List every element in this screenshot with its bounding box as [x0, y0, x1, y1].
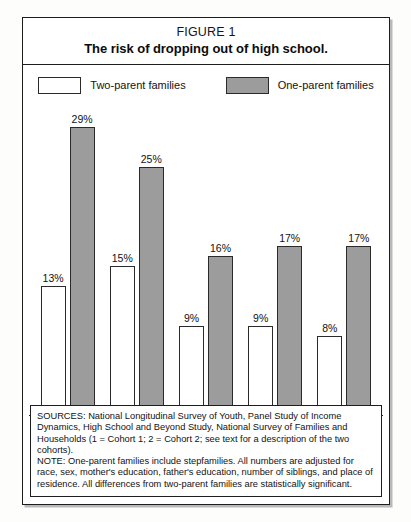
bar-wrap: 17%: [346, 113, 371, 415]
bar-group-nsfh1: 9%17%: [248, 113, 302, 415]
bar-hsb-one-parent: [208, 256, 233, 415]
bar-value-label: 9%: [253, 313, 268, 324]
figure-footnote-box: SOURCES: National Longitudinal Survey of…: [30, 405, 382, 497]
bar-nlsy-one-parent: [70, 127, 95, 415]
bar-value-label: 15%: [112, 253, 133, 264]
bar-psid-two-parent: [110, 266, 135, 415]
bar-hsb-two-parent: [179, 326, 204, 415]
bar-value-label: 16%: [210, 243, 231, 254]
bar-nlsy-two-parent: [41, 286, 66, 415]
legend-label-two-parent: Two-parent families: [90, 79, 185, 91]
bar-nsfh1-two-parent: [248, 326, 273, 415]
bar-wrap: 15%: [110, 113, 135, 415]
legend-label-one-parent: One-parent families: [278, 79, 374, 91]
chart-legend: Two-parent families One-parent families: [23, 73, 389, 97]
legend-item-one-parent: One-parent families: [226, 77, 374, 94]
bar-value-label: 29%: [72, 114, 93, 125]
bar-nsfh2-two-parent: [317, 336, 342, 415]
bar-psid-one-parent: [139, 167, 164, 415]
bar-nsfh1-one-parent: [277, 246, 302, 415]
bar-value-label: 17%: [279, 233, 300, 244]
bar-wrap: 8%: [317, 113, 342, 415]
bar-value-label: 9%: [184, 313, 199, 324]
bar-nsfh2-one-parent: [346, 246, 371, 415]
figure-number: FIGURE 1: [176, 25, 235, 40]
bar-value-label: 8%: [322, 323, 337, 334]
footnote-sources: SOURCES: National Longitudinal Survey of…: [37, 411, 375, 456]
legend-swatch-icon-two-parent: [38, 77, 81, 94]
bar-wrap: 25%: [139, 113, 164, 415]
bar-value-label: 17%: [348, 233, 369, 244]
bar-wrap: 16%: [208, 113, 233, 415]
bar-value-label: 13%: [43, 273, 64, 284]
legend-swatch-icon-one-parent: [226, 77, 269, 94]
bar-group-psid: 15%25%: [110, 113, 164, 415]
bar-value-label: 25%: [141, 154, 162, 165]
bar-wrap: 29%: [70, 113, 95, 415]
bar-wrap: 13%: [41, 113, 66, 415]
bar-wrap: 17%: [277, 113, 302, 415]
chart-plot-area: 13%29%15%25%9%16%9%17%8%17% NLSYPSIDHSBN…: [23, 113, 389, 443]
bar-group-nlsy: 13%29%: [41, 113, 95, 415]
bar-wrap: 9%: [248, 113, 273, 415]
bar-group-nsfh2: 8%17%: [317, 113, 371, 415]
figure-frame: FIGURE 1 The risk of dropping out of hig…: [22, 17, 390, 505]
figure-page: FIGURE 1 The risk of dropping out of hig…: [0, 0, 411, 522]
bar-wrap: 9%: [179, 113, 204, 415]
figure-title: The risk of dropping out of high school.: [84, 41, 328, 57]
figure-title-box: FIGURE 1 The risk of dropping out of hig…: [23, 18, 389, 65]
bar-group-hsb: 9%16%: [179, 113, 233, 415]
chart-bar-groups: 13%29%15%25%9%16%9%17%8%17%: [33, 113, 379, 415]
footnote-note: NOTE: One-parent families include stepfa…: [37, 456, 375, 490]
legend-item-two-parent: Two-parent families: [38, 77, 185, 94]
